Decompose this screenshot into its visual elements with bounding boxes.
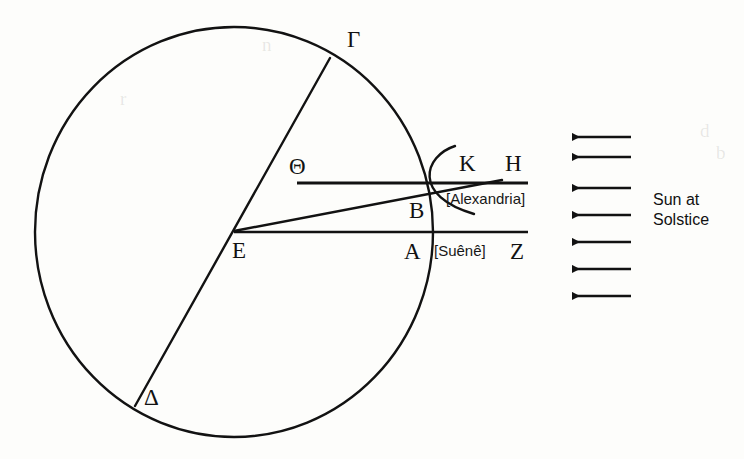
eratosthenes-diagram — [0, 0, 744, 459]
label-epsilon: E — [232, 239, 246, 262]
label-syene: [Suênê] — [434, 243, 486, 258]
diagram-canvas: d b r n Γ Δ Θ — [0, 0, 744, 459]
label-zeta: Z — [510, 240, 524, 263]
label-alpha: A — [404, 240, 421, 263]
label-alexandria: [Alexandria] — [446, 191, 525, 206]
label-eta: H — [505, 152, 522, 175]
sun-caption-line-1: Sun at — [653, 190, 709, 210]
label-gamma: Γ — [347, 28, 360, 51]
label-beta: B — [409, 199, 424, 222]
sun-caption-line-2: Solstice — [653, 210, 709, 230]
label-theta: Θ — [289, 155, 306, 178]
sun-ray-group — [572, 137, 631, 296]
label-delta: Δ — [144, 386, 159, 409]
label-kappa: K — [459, 152, 476, 175]
sun-at-solstice-caption: Sun at Solstice — [653, 190, 709, 230]
